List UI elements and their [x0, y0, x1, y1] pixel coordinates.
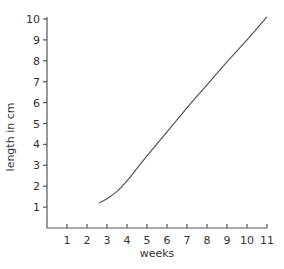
x-axis-label: weeks	[140, 247, 175, 260]
y-tick-label: 7	[33, 76, 40, 89]
y-tick-label: 4	[33, 138, 40, 151]
x-tick-label: 9	[224, 234, 231, 247]
x-tick-label: 7	[184, 234, 191, 247]
y-tick-label: 3	[33, 159, 40, 172]
y-tick-label: 10	[26, 13, 40, 26]
y-tick-label: 9	[33, 34, 40, 47]
y-axis: 12345678910	[26, 13, 47, 228]
x-tick-label: 5	[144, 234, 151, 247]
y-tick-label: 6	[33, 97, 40, 110]
x-tick-label: 2	[84, 234, 91, 247]
x-tick-label: 8	[204, 234, 211, 247]
x-tick-label: 10	[240, 234, 254, 247]
y-tick-label: 5	[33, 118, 40, 131]
y-tick-label: 1	[33, 201, 40, 214]
line-chart: 12345678910 1234567891011 weeks length i…	[0, 0, 284, 269]
y-axis-label: length in cm	[4, 103, 17, 172]
data-line	[99, 17, 267, 203]
x-tick-label: 6	[164, 234, 171, 247]
x-tick-label: 1	[64, 234, 71, 247]
x-tick-label: 4	[124, 234, 131, 247]
y-tick-label: 8	[33, 55, 40, 68]
x-axis: 1234567891011	[47, 224, 274, 247]
x-tick-label: 3	[104, 234, 111, 247]
x-tick-label: 11	[260, 234, 274, 247]
plot-area	[99, 17, 267, 203]
y-tick-label: 2	[33, 180, 40, 193]
